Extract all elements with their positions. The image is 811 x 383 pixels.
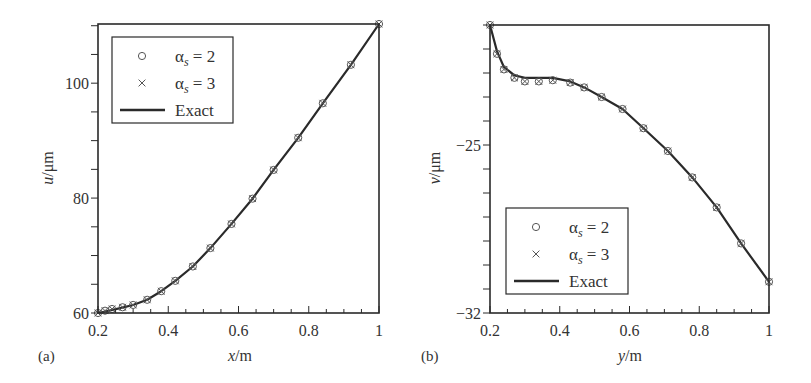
y-tick-label: 80: [73, 190, 89, 207]
cross-marker: [713, 204, 720, 211]
chart-panel-b: 0.20.40.60.81−32−25 αs = 2αs = 3Exact y/…: [421, 21, 773, 365]
cross-marker: [172, 277, 179, 284]
cross-marker: [249, 195, 256, 202]
x-axis-label-a: x/m: [227, 347, 253, 364]
x-tick-label: 0.8: [689, 322, 709, 339]
y-tick-label: −32: [456, 305, 481, 322]
y-axis-label-b: v/μm: [426, 151, 444, 184]
cross-marker: [598, 94, 605, 101]
cross-marker: [738, 240, 745, 247]
cross-marker: [319, 100, 326, 107]
legend-label: αs = 2: [569, 218, 609, 240]
cross-marker: [535, 78, 542, 85]
legend-a: αs = 2αs = 3Exact: [112, 37, 233, 123]
x-tick-label: 0.2: [480, 322, 500, 339]
cross-marker: [270, 167, 277, 174]
cross-marker: [158, 288, 165, 295]
chart-panel-a: 0.20.40.60.816080100 αs = 2αs = 3Exact x…: [38, 20, 383, 365]
y-axis-label-a: u/μm: [39, 151, 57, 185]
legend-b: αs = 2αs = 3Exact: [506, 208, 628, 294]
x-axis-label-b: y/m: [616, 347, 643, 365]
cross-marker: [295, 134, 302, 141]
legend-label: αs = 3: [569, 245, 609, 267]
x-tick-label: 0.4: [550, 322, 570, 339]
x-tick-label: 0.8: [299, 322, 319, 339]
panel-label-a: (a): [38, 348, 55, 365]
cross-marker: [228, 221, 235, 228]
y-tick-label: −25: [456, 137, 481, 154]
legend-label: αs = 2: [175, 47, 215, 69]
legend-label: αs = 3: [175, 74, 215, 96]
x-tick-label: 0.4: [158, 322, 178, 339]
y-tick-label: 100: [65, 75, 89, 92]
legend-label: Exact: [175, 101, 214, 120]
cross-marker: [664, 148, 671, 155]
cross-marker: [619, 106, 626, 113]
x-tick-label: 1: [375, 322, 383, 339]
y-tick-label: 60: [73, 305, 89, 322]
cross-marker: [207, 245, 214, 252]
cross-marker: [640, 125, 647, 132]
x-tick-label: 0.6: [229, 322, 249, 339]
x-tick-label: 0.2: [88, 322, 108, 339]
panel-label-b: (b): [421, 348, 439, 365]
x-tick-label: 0.6: [620, 322, 640, 339]
cross-marker: [348, 61, 355, 68]
cross-marker: [689, 174, 696, 181]
legend-label: Exact: [569, 272, 608, 291]
cross-marker: [189, 263, 196, 270]
figure-canvas: 0.20.40.60.816080100 αs = 2αs = 3Exact x…: [0, 0, 811, 383]
cross-marker: [521, 78, 528, 85]
x-tick-label: 1: [765, 322, 773, 339]
